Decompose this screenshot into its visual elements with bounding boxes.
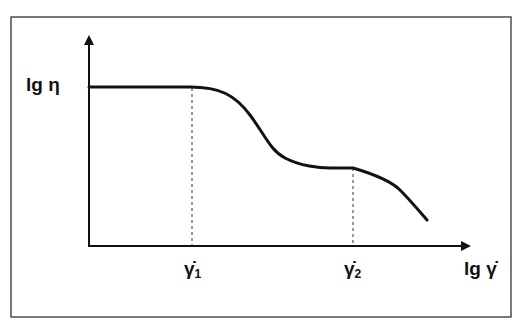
y-axis-label: lg η bbox=[26, 74, 60, 96]
x-axis-label: lg γ̇ bbox=[464, 258, 497, 280]
gamma1-label: γ̇1 bbox=[184, 258, 201, 281]
gamma1-symbol: γ̇ bbox=[184, 258, 195, 279]
gamma2-subscript: 2 bbox=[355, 267, 362, 281]
viscosity-curve bbox=[89, 87, 427, 220]
viscosity-shear-rate-diagram bbox=[0, 0, 530, 333]
gamma2-symbol: γ̇ bbox=[344, 258, 355, 279]
frame-border bbox=[11, 17, 511, 317]
gamma1-subscript: 1 bbox=[195, 267, 202, 281]
gamma2-label: γ̇2 bbox=[344, 258, 361, 281]
